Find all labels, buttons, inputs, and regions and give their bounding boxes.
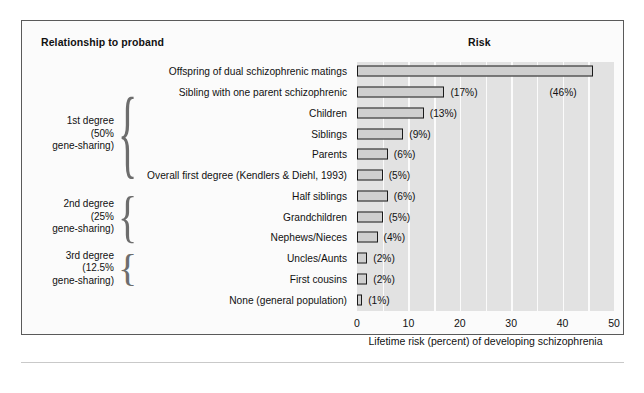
- bar: [357, 170, 383, 181]
- category-label: Parents: [312, 149, 347, 160]
- x-axis-tick-label: 0: [354, 317, 360, 329]
- category-label: None (general population): [229, 294, 347, 305]
- category-label: Nephews/Nieces: [271, 232, 347, 243]
- bar-value-label: (2%): [373, 273, 395, 284]
- category-label: Children: [309, 107, 347, 118]
- bar-value-label: (9%): [409, 128, 431, 139]
- gridline: [511, 62, 513, 311]
- bar-value-label: (6%): [394, 149, 416, 160]
- x-axis-tick-label: 20: [454, 317, 466, 329]
- bar: [357, 190, 388, 201]
- plot-area: (46%)(17%)(13%)(9%)(6%)(5%)(6%)(5%)(4%)(…: [357, 62, 614, 311]
- bar: [357, 149, 388, 160]
- category-label: Uncles/Aunts: [287, 253, 347, 264]
- bar: [357, 128, 403, 139]
- bar: [357, 107, 424, 118]
- bar-value-label: (46%): [549, 87, 576, 98]
- bar-value-label: (4%): [384, 232, 406, 243]
- bar-value-label: (6%): [394, 190, 416, 201]
- gridline: [434, 62, 436, 311]
- gridline: [486, 62, 488, 311]
- bar: [357, 87, 444, 98]
- category-label: Sibling with one parent schizophrenic: [179, 87, 347, 98]
- x-axis-tick-label: 10: [403, 317, 415, 329]
- bar: [357, 232, 378, 243]
- x-axis-title: Lifetime risk (percent) of developing sc…: [368, 335, 602, 347]
- category-label: Siblings: [311, 128, 347, 139]
- category-label: First cousins: [290, 273, 347, 284]
- bar-value-label: (2%): [373, 253, 395, 264]
- category-label: Offspring of dual schizophrenic matings: [169, 66, 347, 77]
- category-label: Grandchildren: [283, 211, 347, 222]
- bar-value-label: (5%): [389, 211, 411, 222]
- figure-panel: Relationship to proband Risk {1st degree…: [21, 20, 624, 335]
- bar-value-label: (1%): [368, 294, 390, 305]
- bar-value-label: (17%): [450, 87, 477, 98]
- gridline: [460, 62, 462, 311]
- gridline: [588, 62, 590, 311]
- category-label: Overall first degree (Kendlers & Diehl, …: [147, 170, 347, 181]
- gridline: [563, 62, 565, 311]
- category-label: Half siblings: [292, 190, 347, 201]
- gridline: [537, 62, 539, 311]
- bottom-separator-rule: [21, 362, 624, 363]
- bar: [357, 273, 367, 284]
- bar: [357, 294, 362, 305]
- bar: [357, 211, 383, 222]
- gridline: [408, 62, 410, 311]
- bar-value-label: (13%): [430, 107, 457, 118]
- x-axis-tick-label: 30: [505, 317, 517, 329]
- bar: [357, 253, 367, 264]
- x-axis-tick-label: 50: [608, 317, 620, 329]
- bar-value-label: (5%): [389, 170, 411, 181]
- bar: [357, 66, 593, 77]
- x-axis-tick-label: 40: [557, 317, 569, 329]
